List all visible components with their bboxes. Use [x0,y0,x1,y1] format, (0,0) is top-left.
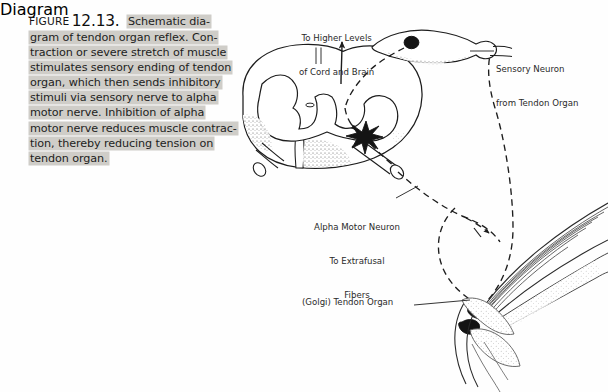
motor-path-to-muscle [462,216,500,242]
shading-right-edge [392,131,418,156]
figure-root: FIGURE 12.13. Schematic dia- gram of ten… [0,0,608,392]
label-sensory-neuron-line2: from Tendon Organ [496,98,578,109]
label-higher-levels-line1: To Higher Levels [299,33,374,44]
central-canal [306,103,314,107]
label-higher-levels: To Higher Levels of Cord and Brain [299,10,374,101]
label-sensory-neuron: Sensory Neuron from Tendon Organ [496,41,578,132]
label-golgi-tendon-organ: (Golgi) Tendon Organ [302,297,393,308]
leader-golgi [414,300,470,305]
muscle-shading [498,261,600,334]
label-sensory-neuron-line1: Sensory Neuron [496,64,578,75]
motor-path-loop [438,208,478,304]
leader-alpha-motor [396,186,418,198]
tendon [455,300,466,384]
motor-path-arrow-seg [466,218,489,233]
skeletal-muscle-and-tendon [455,203,608,392]
sensory-cell-body [404,36,419,48]
alpha-motor-efferent-pathway [398,172,500,304]
pathway-cross-tick [474,228,481,237]
label-alpha-motor-line1: Alpha Motor Neuron [303,222,411,233]
bone [462,298,520,392]
label-alpha-motor-line2: To Extrafusal [303,256,411,267]
label-higher-levels-line2: of Cord and Brain [299,67,374,78]
